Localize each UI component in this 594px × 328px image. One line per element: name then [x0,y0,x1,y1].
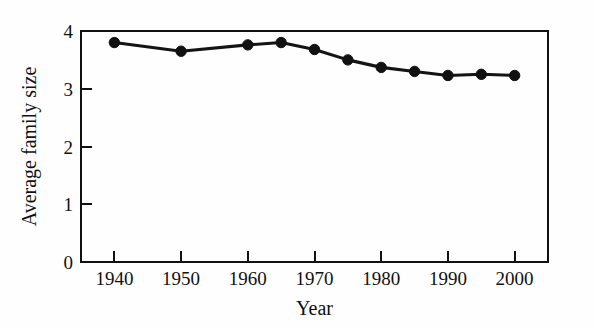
y-tick-label-1: 1 [64,194,74,215]
y-tick-label-0: 0 [64,252,74,273]
x-tick-label-1990: 1990 [429,268,467,289]
data-point [409,66,419,76]
x-tick-label-1950: 1950 [162,268,200,289]
y-axis-tick-labels: 4 3 2 1 0 [64,21,74,273]
x-axis-title: Year [296,297,333,319]
chart-figure: 4 3 2 1 0 1940 1950 1960 1970 1980 1990 … [0,0,594,328]
y-tick-label-2: 2 [64,137,74,158]
data-point [176,46,186,56]
line-chart: 4 3 2 1 0 1940 1950 1960 1970 1980 1990 … [0,0,594,328]
data-point [376,62,386,72]
x-tick-label-1980: 1980 [362,268,400,289]
data-point [309,44,319,54]
x-tick-label-1970: 1970 [296,268,334,289]
x-axis-ticks [114,251,514,262]
plot-frame [81,31,548,262]
data-point [443,70,453,80]
data-point [476,69,486,79]
y-axis-ticks [81,31,92,262]
y-tick-label-4: 4 [64,21,74,42]
data-point [109,37,119,47]
y-tick-label-3: 3 [64,79,74,100]
x-axis-tick-labels: 1940 1950 1960 1970 1980 1990 2000 [95,268,533,289]
x-tick-label-1960: 1960 [229,268,267,289]
data-point [276,37,286,47]
data-point [343,55,353,65]
y-axis-title: Average family size [18,67,41,227]
data-point [243,40,253,50]
data-point [509,70,519,80]
x-tick-label-2000: 2000 [496,268,534,289]
x-tick-label-1940: 1940 [95,268,133,289]
